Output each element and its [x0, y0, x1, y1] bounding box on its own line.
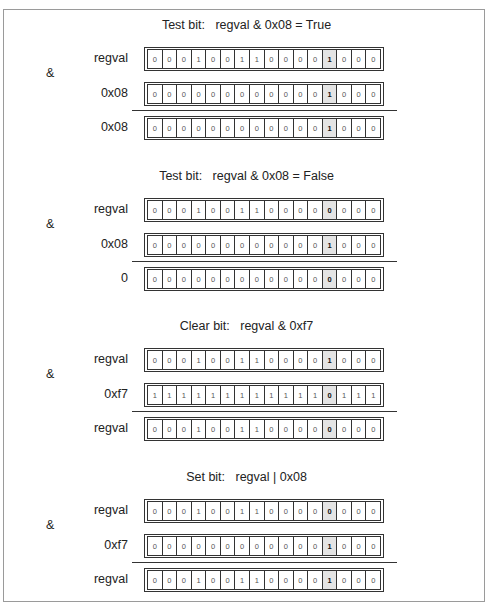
bit-cell: 0 [163, 235, 178, 255]
bit-cell: 1 [235, 49, 250, 69]
bit-cell: 0 [279, 501, 294, 521]
bit-cell: 1 [235, 350, 250, 370]
operand-row-label: regval [0, 503, 128, 517]
bit-cell: 0 [352, 118, 367, 138]
bit-cell: 0 [206, 118, 221, 138]
bit-cell-highlighted: 1 [323, 49, 338, 69]
bit-cell: 0 [250, 536, 265, 556]
bit-cell: 1 [250, 570, 265, 590]
bit-cell: 0 [265, 536, 280, 556]
bit-cell: 0 [192, 269, 207, 289]
bit-cell: 1 [192, 385, 207, 405]
bit-cell: 1 [192, 501, 207, 521]
bit-cell: 0 [221, 49, 236, 69]
bit-cell-highlighted: 1 [323, 118, 338, 138]
mask-row-register: 0000000000001000 [144, 82, 384, 106]
bit-cell: 0 [308, 49, 323, 69]
bit-cell: 0 [163, 269, 178, 289]
bit-cell: 0 [308, 536, 323, 556]
bit-cell: 0 [279, 200, 294, 220]
bit-cell: 1 [235, 570, 250, 590]
bit-cell: 0 [177, 200, 192, 220]
mask-row-label: 0x08 [0, 86, 128, 100]
mask-row-label: 0xf7 [0, 538, 128, 552]
bit-cell: 0 [235, 84, 250, 104]
bit-cell: 0 [265, 118, 280, 138]
bit-cell: 0 [294, 118, 309, 138]
bit-cell: 0 [250, 235, 265, 255]
bit-cell: 0 [308, 118, 323, 138]
bit-cell-highlighted: 1 [323, 570, 338, 590]
bit-cell: 0 [177, 501, 192, 521]
bit-cell: 0 [366, 419, 381, 439]
bit-cell: 0 [337, 49, 352, 69]
bit-cell: 0 [147, 269, 163, 289]
bit-cell: 0 [235, 118, 250, 138]
section-set-bit: Set bit: regval | 0x08&regval00010011000… [0, 461, 493, 611]
bit-cell: 0 [337, 570, 352, 590]
bit-cell: 1 [366, 385, 381, 405]
bit-cell: 0 [366, 49, 381, 69]
bit-cell: 0 [308, 235, 323, 255]
bit-cell: 0 [177, 536, 192, 556]
bit-cell: 0 [147, 84, 163, 104]
bit-cell: 0 [221, 536, 236, 556]
bit-cell: 0 [265, 49, 280, 69]
bit-cell: 0 [163, 419, 178, 439]
bit-cell: 1 [250, 350, 265, 370]
result-row-label: regval [0, 421, 128, 435]
bit-cell: 0 [352, 269, 367, 289]
bit-cell: 0 [308, 84, 323, 104]
result-row-register: 0000000000001000 [144, 116, 384, 140]
bit-cell: 0 [147, 235, 163, 255]
bit-cell: 1 [250, 419, 265, 439]
bit-cell: 0 [163, 118, 178, 138]
bit-cell: 0 [294, 536, 309, 556]
bit-cell: 0 [366, 501, 381, 521]
bit-cell: 0 [221, 501, 236, 521]
bit-cell: 0 [206, 501, 221, 521]
mask-row-label: 0xf7 [0, 387, 128, 401]
mask-row-register: 1111111111110111 [144, 383, 384, 407]
bit-cell: 0 [308, 200, 323, 220]
bit-cell: 1 [265, 385, 280, 405]
bit-cell: 1 [235, 419, 250, 439]
result-row-register: 0001001100000000 [144, 417, 384, 441]
bit-cell: 0 [337, 200, 352, 220]
bit-cell: 0 [265, 350, 280, 370]
bit-cell: 0 [294, 84, 309, 104]
bit-cell: 0 [147, 419, 163, 439]
bit-cell: 1 [192, 570, 207, 590]
bit-cell: 0 [163, 49, 178, 69]
bit-cell: 0 [308, 501, 323, 521]
bit-cell: 0 [206, 570, 221, 590]
bit-cell: 0 [177, 84, 192, 104]
operand-row-register: 0001001100000000 [144, 198, 384, 222]
bit-cell: 0 [279, 570, 294, 590]
operator-symbol: & [46, 66, 54, 80]
bit-cell-highlighted: 1 [323, 536, 338, 556]
bit-cell: 0 [163, 501, 178, 521]
bit-cell: 0 [366, 200, 381, 220]
bit-cell: 0 [352, 501, 367, 521]
result-divider-line [132, 562, 397, 563]
bit-cell: 1 [192, 200, 207, 220]
bit-cell: 0 [235, 235, 250, 255]
bit-cell: 1 [352, 385, 367, 405]
operator-symbol: & [46, 217, 54, 231]
bit-cell: 0 [235, 536, 250, 556]
bit-cell: 0 [337, 269, 352, 289]
bit-cell: 0 [352, 419, 367, 439]
operand-row-register: 0001001100001000 [144, 348, 384, 372]
bit-cell: 0 [308, 350, 323, 370]
bit-cell: 0 [294, 570, 309, 590]
bit-cell: 0 [177, 269, 192, 289]
bit-cell: 1 [250, 49, 265, 69]
bit-cell: 0 [163, 200, 178, 220]
bit-cell: 1 [163, 385, 178, 405]
bit-cell: 0 [279, 536, 294, 556]
result-row-register: 0001001100001000 [144, 568, 384, 592]
bit-cell: 0 [177, 49, 192, 69]
bit-cell: 0 [279, 350, 294, 370]
bit-cell: 0 [294, 235, 309, 255]
